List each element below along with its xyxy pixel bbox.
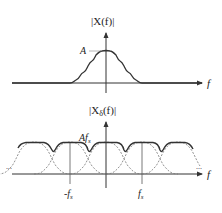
top-x-label: f — [207, 77, 212, 89]
tick-label-neg-fs: -fs — [64, 188, 73, 201]
top-peak-label: A — [79, 45, 87, 56]
bottom-y-label: |Xδ(f)| — [89, 104, 116, 118]
ellipsis-left: ... — [6, 162, 12, 171]
bottom-plot: |Xδ(f)| Afs ... ... f -fs fs — [0, 104, 212, 201]
sampling-spectrum-figure: |X(f)| A f |Xδ(f)| — [0, 0, 222, 213]
top-plot: |X(f)| A f — [12, 15, 212, 93]
tick-label-pos-fs: fs — [138, 188, 144, 201]
top-spectrum-curve — [12, 51, 202, 84]
top-y-label: |X(f)| — [91, 15, 114, 28]
spectral-replicas — [0, 142, 200, 174]
ellipsis-right: ... — [196, 162, 202, 171]
bottom-x-label: f — [207, 168, 212, 180]
